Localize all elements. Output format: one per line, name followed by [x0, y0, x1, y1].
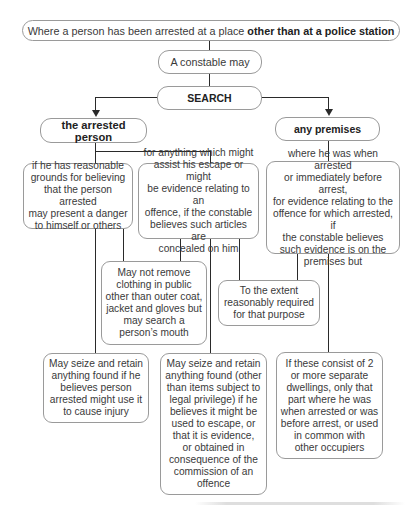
text-line: other than outer coat, — [106, 291, 203, 303]
text-line: part where he was — [281, 394, 378, 406]
connector-search-left — [95, 97, 157, 98]
text-line: jacket and gloves but — [106, 303, 203, 315]
text-line: that it is evidence, — [165, 430, 261, 442]
extent-required-box: To the extent reasonably required for th… — [218, 280, 320, 326]
root-condition-emphasis: other than at a police station — [247, 25, 394, 37]
text-line: may present a danger — [27, 208, 129, 220]
text-line: other occupiers — [281, 442, 378, 454]
premises-condition-box: where he was when arrested or immediatel… — [266, 161, 400, 254]
text-line: used to escape, or — [165, 418, 261, 430]
text-line: than items subject to — [165, 382, 261, 394]
text-line: for anything which might — [142, 147, 255, 159]
search-text: SEARCH — [187, 92, 231, 104]
connector-premises-to-dwellings — [328, 253, 329, 352]
text-line: offence — [165, 478, 261, 490]
text-line: arrested might use it — [49, 394, 143, 406]
text-line: or obtained in — [165, 442, 261, 454]
text-line: concealed on him — [142, 243, 255, 255]
branch-arrested-person-label: the arrested person — [44, 119, 143, 143]
text-line: consequence of the — [165, 454, 261, 466]
root-condition-box: Where a person has been arrested at a pl… — [22, 20, 400, 41]
search-box: SEARCH — [157, 86, 262, 110]
text-line: for that purpose — [224, 309, 314, 321]
arrow-down-icon — [325, 109, 333, 116]
text-line: reasonably required — [224, 297, 314, 309]
text-line: May seize and retain — [165, 358, 261, 370]
connector-constable-to-search — [209, 73, 210, 86]
constable-may-text: A constable may — [170, 56, 249, 68]
root-condition-text: Where a person has been arrested at a pl… — [28, 25, 248, 37]
text-line: offence for which arrested, if — [270, 208, 396, 232]
connector-search-right — [262, 97, 329, 98]
text-line: the constable believes — [270, 232, 396, 244]
branch-any-premises-label: any premises — [294, 123, 361, 135]
seize-injury-box: May seize and retain anything found if h… — [43, 353, 149, 423]
text-line: dwellings, only that — [281, 382, 378, 394]
text-line: for evidence relating to the — [270, 196, 396, 208]
text-line: believes it might be — [165, 406, 261, 418]
text-line: clothing in public — [106, 279, 203, 291]
connector-anything-to-seize-evidence — [210, 238, 211, 353]
text-line: such evidence is on the — [270, 244, 396, 256]
text-line: offence, if the constable — [142, 207, 255, 219]
text-line: in common with — [281, 430, 378, 442]
separate-dwellings-box: If these consist of 2 or more separate d… — [276, 352, 383, 459]
text-line: May not remove — [106, 267, 203, 279]
text-line: legal privilege) if he — [165, 394, 261, 406]
text-line: to himself or others — [27, 220, 129, 232]
text-line: believes such articles are — [142, 219, 255, 243]
text-line: premises but — [270, 256, 396, 268]
seize-evidence-box: May seize and retain anything found (oth… — [160, 353, 267, 495]
text-line: anything found if he — [49, 370, 143, 382]
text-line: be evidence relating to an — [142, 183, 255, 207]
constable-may-box: A constable may — [158, 50, 262, 74]
connector-root-to-constable — [209, 40, 210, 50]
clothing-restriction-box: May not remove clothing in public other … — [101, 261, 207, 345]
text-line: believes person — [49, 382, 143, 394]
escape-evidence-condition-box: for anything which might assist his esca… — [138, 163, 259, 239]
text-line: or immediately before arrest, — [270, 172, 396, 196]
connector-danger-to-clothing — [123, 228, 124, 261]
text-line: to cause injury — [49, 406, 143, 418]
branch-arrested-person-box: the arrested person — [40, 118, 147, 143]
text-line: where he was when arrested — [270, 148, 396, 172]
text-line: before arrest, or used — [281, 418, 378, 430]
text-line: or more separate — [281, 370, 378, 382]
text-line: To the extent — [224, 285, 314, 297]
text-line: commission of an — [165, 466, 261, 478]
text-line: assist his escape or might — [142, 159, 255, 183]
text-line: grounds for believing — [27, 172, 129, 184]
arrow-down-icon — [92, 110, 100, 117]
text-line: person’s mouth — [106, 327, 203, 339]
branch-any-premises-box: any premises — [275, 117, 380, 141]
text-line: anything found (other — [165, 370, 261, 382]
connector-danger-to-seize-injury — [95, 228, 96, 353]
text-line: that the person arrested — [27, 184, 129, 208]
danger-condition-box: if he has reasonable grounds for believi… — [23, 163, 133, 229]
text-line: when arrested or was — [281, 406, 378, 418]
text-line: if he has reasonable — [27, 160, 129, 172]
text-line: May seize and retain — [49, 358, 143, 370]
text-line: may search a — [106, 315, 203, 327]
text-line: If these consist of 2 — [281, 358, 378, 370]
caption-faint — [195, 502, 405, 505]
